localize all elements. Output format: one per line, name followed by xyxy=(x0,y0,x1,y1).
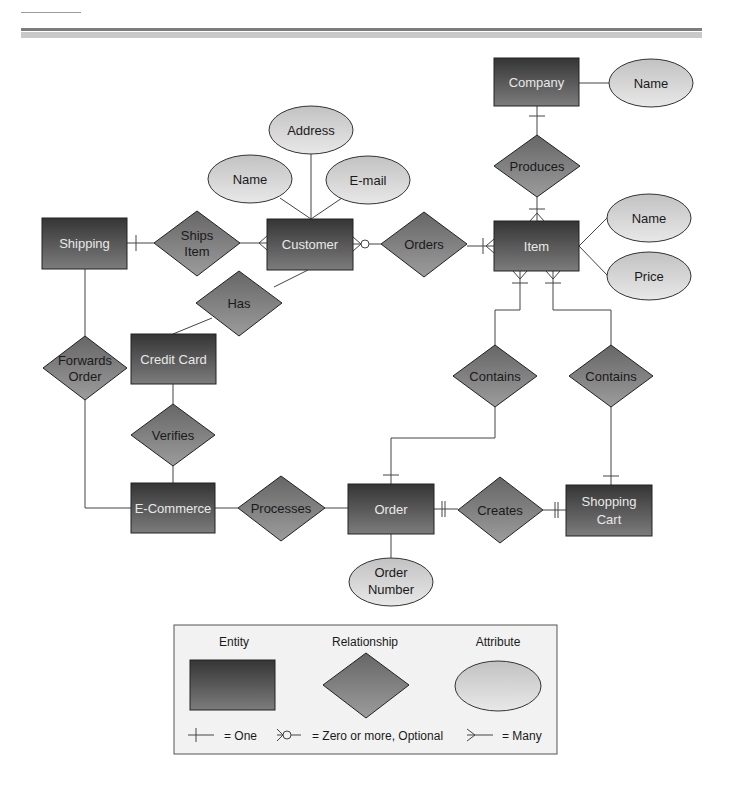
entity-credit-card[interactable]: Credit Card xyxy=(131,334,216,384)
attribute-label: Name xyxy=(233,172,268,187)
attribute-label: Price xyxy=(634,269,664,284)
relationship-label: Contains xyxy=(469,369,521,384)
legend: Entity Relationship Attribute = One = Ze… xyxy=(174,625,557,754)
attribute-customer-address[interactable]: Address xyxy=(269,106,353,154)
entity-order[interactable]: Order xyxy=(348,484,434,534)
attribute-label: Address xyxy=(287,123,335,138)
entity-ecommerce[interactable]: E-Commerce xyxy=(131,483,215,533)
legend-entity-shape xyxy=(190,660,275,710)
legend-attribute-shape xyxy=(455,661,541,711)
entity-label: Customer xyxy=(282,237,339,252)
attribute-label: Number xyxy=(368,582,415,597)
entity-shopping-cart[interactable]: Shopping Cart xyxy=(566,485,652,536)
entity-label: Shopping xyxy=(582,494,637,509)
attribute-item-name[interactable]: Name xyxy=(607,194,691,242)
entity-label: Cart xyxy=(597,512,622,527)
entity-label: Item xyxy=(524,239,549,254)
relationship-label: Forwards xyxy=(58,353,113,368)
legend-many-label: = Many xyxy=(502,729,542,743)
legend-attribute-label: Attribute xyxy=(476,635,521,649)
relationship-ships-item[interactable]: Ships Item xyxy=(154,211,240,276)
legend-zero-or-more-label: = Zero or more, Optional xyxy=(312,729,443,743)
entity-item[interactable]: Item xyxy=(494,221,579,271)
legend-entity-label: Entity xyxy=(219,635,249,649)
relationship-contains-order[interactable]: Contains xyxy=(453,345,537,407)
attribute-item-price[interactable]: Price xyxy=(607,252,691,300)
attribute-label: Order xyxy=(374,565,408,580)
entity-company[interactable]: Company xyxy=(494,58,579,106)
entity-label: Order xyxy=(374,502,408,517)
attribute-order-number[interactable]: Order Number xyxy=(349,558,433,606)
entity-label: E-Commerce xyxy=(135,501,212,516)
relationship-label: Ships xyxy=(181,228,214,243)
relationship-creates[interactable]: Creates xyxy=(458,477,543,543)
er-diagram: Company Shipping Customer Item Credit Ca… xyxy=(0,0,730,796)
attribute-label: Name xyxy=(634,76,669,91)
relationship-label: Order xyxy=(68,369,102,384)
entity-shipping[interactable]: Shipping xyxy=(42,218,127,269)
relationship-label: Contains xyxy=(585,369,637,384)
legend-one-label: = One xyxy=(224,729,257,743)
relationship-processes[interactable]: Processes xyxy=(238,476,325,541)
relationship-contains-cart[interactable]: Contains xyxy=(569,345,653,407)
relationship-label: Produces xyxy=(510,159,565,174)
entity-label: Company xyxy=(509,75,565,90)
relationship-verifies[interactable]: Verifies xyxy=(131,404,215,466)
relationship-produces[interactable]: Produces xyxy=(494,135,580,197)
entity-label: Credit Card xyxy=(140,352,206,367)
relationship-label: Has xyxy=(227,296,251,311)
relationship-label: Creates xyxy=(477,503,523,518)
entity-customer[interactable]: Customer xyxy=(267,219,353,270)
attribute-label: Name xyxy=(632,211,667,226)
relationship-label: Verifies xyxy=(152,428,195,443)
relationship-has[interactable]: Has xyxy=(196,271,282,336)
relationship-orders[interactable]: Orders xyxy=(381,212,467,277)
attribute-customer-name[interactable]: Name xyxy=(208,155,292,203)
relationship-forwards-order[interactable]: Forwards Order xyxy=(43,336,127,400)
entity-label: Shipping xyxy=(59,236,110,251)
relationship-label: Item xyxy=(184,244,209,259)
relationship-label: Orders xyxy=(404,237,444,252)
relationship-label: Processes xyxy=(251,501,312,516)
attribute-label: E-mail xyxy=(350,173,387,188)
legend-relationship-label: Relationship xyxy=(332,635,398,649)
attribute-customer-email[interactable]: E-mail xyxy=(326,156,410,204)
attribute-company-name[interactable]: Name xyxy=(609,59,693,107)
